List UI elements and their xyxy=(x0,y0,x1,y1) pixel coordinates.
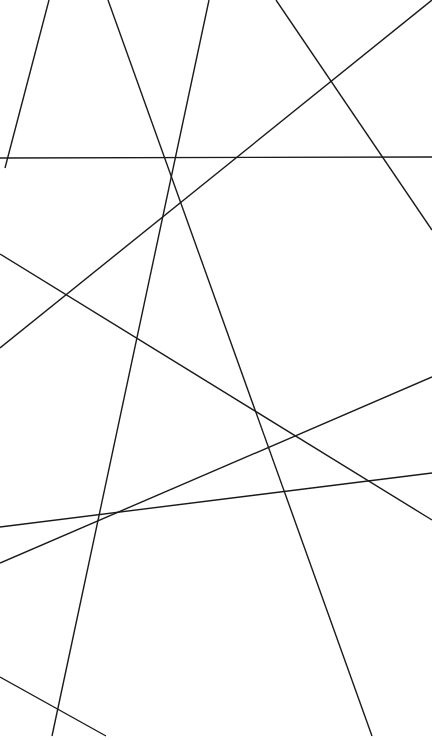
figure-canvas xyxy=(0,0,432,740)
figure-background xyxy=(0,0,432,740)
line-arrangement-svg xyxy=(0,0,432,740)
